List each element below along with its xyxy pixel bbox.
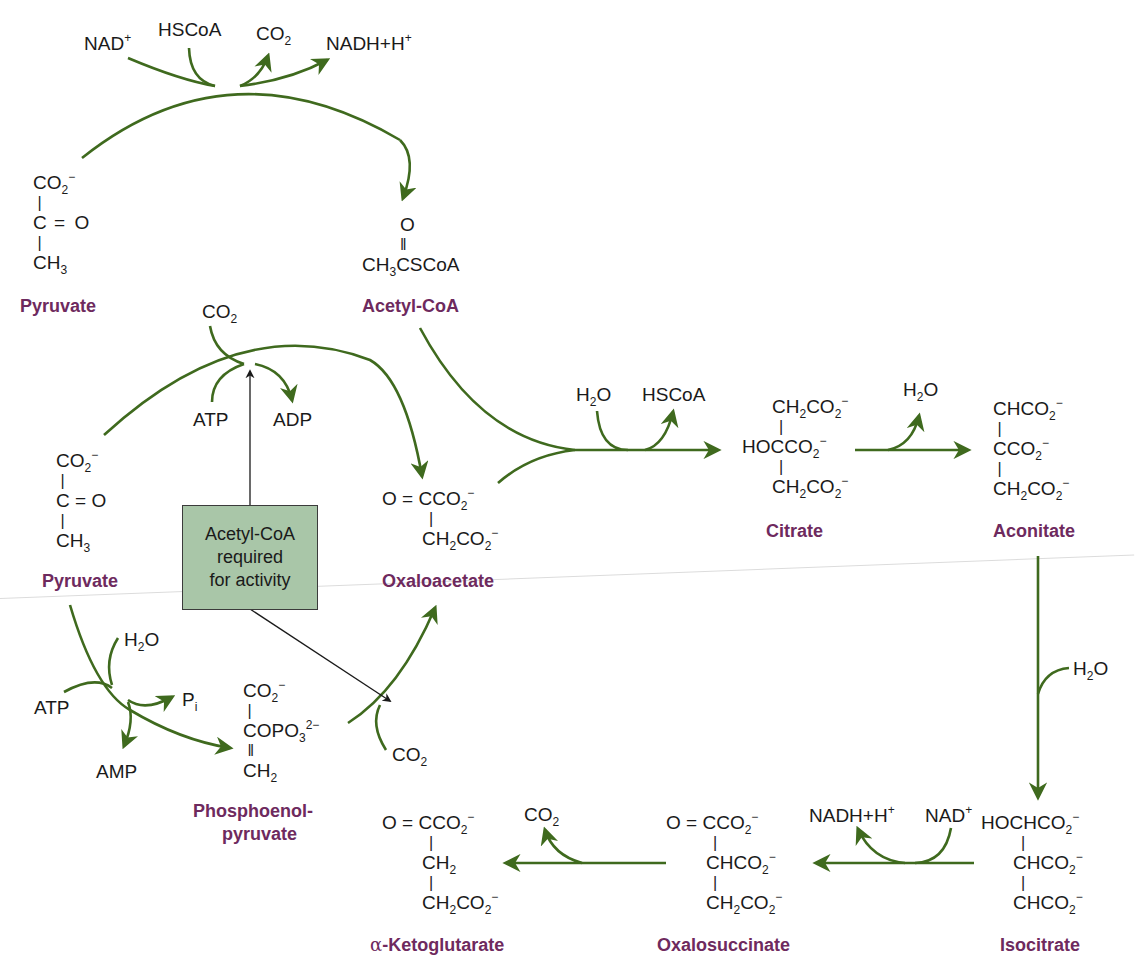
structure-pyruvate-top: CO2− | C = O | CH3 (33, 172, 89, 274)
label-pyruvate-mid: Pyruvate (42, 572, 118, 590)
cofactor-h2o-citrate: H2O (576, 385, 611, 404)
regulator-box: Acetyl-CoA required for activity (182, 505, 318, 610)
structure-aconitate: CHCO2− | CCO2− | CH2CO2− (993, 398, 1069, 500)
arrow-h2o-out-aconitase (888, 416, 919, 450)
arrow-pep-to-oxaloacetate (348, 608, 435, 723)
pathway-arrows (0, 0, 1135, 979)
cofactor-nadh: NADH+H+ (326, 34, 412, 53)
cofactor-h2o-ppdk: H2O (124, 630, 159, 649)
arrow-co2-out-decarb (545, 830, 582, 863)
arrow-pyruvate-to-pep (70, 605, 230, 748)
structure-pep: CO2− | COPO32− ‖ CH2 (243, 680, 319, 782)
cofactor-nad-icdh: NAD+ (925, 806, 972, 825)
label-citrate: Citrate (766, 522, 823, 540)
cofactor-nadh-icdh: NADH+H+ (809, 806, 895, 825)
label-oxalosuccinate: Oxalosuccinate (657, 936, 790, 954)
arrow-co2-in-pepc (376, 705, 386, 750)
cofactor-atp-ppdk: ATP (34, 698, 70, 717)
cofactor-co2: CO2 (256, 24, 291, 43)
label-isocitrate: Isocitrate (1000, 936, 1080, 954)
structure-acetyl-coa: O ‖ CH3CSCoA (362, 214, 460, 276)
arrow-adp-out (255, 364, 292, 400)
structure-oxalosuccinate: O = CCO2− | CHCO2− | CH2CO2− (666, 812, 782, 914)
cofactor-pi: Pi (182, 690, 197, 709)
cofactor-adp: ADP (273, 410, 312, 429)
cofactor-amp: AMP (96, 762, 137, 781)
structure-pyruvate-mid: CO2− | C = O | CH3 (56, 450, 106, 552)
label-alpha-ketoglutarate: α-Ketoglutarate (370, 936, 504, 954)
cofactor-atp: ATP (193, 410, 229, 429)
cofactor-co2-pepc: CO2 (392, 745, 427, 764)
arrow-h2o-in-citrate (597, 411, 628, 450)
regulator-line-2: required (217, 546, 283, 569)
structure-alpha-ketoglutarate: O = CCO2− | CH2 | CH2CO2− (382, 812, 498, 914)
cofactor-co2-carboxylase: CO2 (202, 302, 237, 321)
label-oxaloacetate: Oxaloacetate (382, 572, 494, 590)
cofactor-nad: NAD+ (84, 34, 131, 53)
arrow-oxaloacetate-to-merge (498, 450, 575, 483)
arrow-nad-in (128, 58, 215, 86)
arrow-atp-in (212, 364, 244, 402)
cofactor-h2o-aconitase-out: H2O (903, 380, 938, 399)
label-pep-line2: pyruvate (222, 825, 297, 843)
structure-oxaloacetate: O = CCO2− | CH2CO2− (382, 488, 498, 550)
arrow-hscoa-out (645, 412, 673, 450)
arrow-pi-out (128, 697, 172, 705)
label-pep-line1: Phosphoenol- (193, 802, 313, 820)
arrow-nadh-out-icdh (858, 829, 905, 863)
arrow-h2o-in-ppdk (109, 638, 118, 685)
cofactor-hscoa-citrate: HSCoA (642, 385, 705, 404)
regulator-line-1: Acetyl-CoA (205, 523, 295, 546)
label-pyruvate-top: Pyruvate (20, 297, 96, 315)
arrow-h2o-in-aconitase (1038, 668, 1069, 694)
label-aconitate: Aconitate (993, 522, 1075, 540)
structure-isocitrate: HOCHCO2− | CHCO2− | CHCO2− (981, 812, 1083, 914)
cofactor-hscoa: HSCoA (158, 20, 221, 39)
arrow-nadh-out (240, 60, 327, 86)
cofactor-co2-decarb: CO2 (524, 805, 559, 824)
regulator-line-3: for activity (209, 569, 290, 592)
structure-citrate: CH2CO2− | HOCCO2− | CH2CO2− (742, 396, 848, 498)
label-acetyl-coa: Acetyl-CoA (362, 297, 459, 315)
arrow-pyruvate-to-acetylcoa (82, 94, 400, 158)
arrow-acetylcoa-to-merge (420, 328, 575, 450)
cofactor-h2o-aconitase-in: H2O (1073, 659, 1108, 678)
arrow-nad-in-icdh (915, 828, 951, 863)
